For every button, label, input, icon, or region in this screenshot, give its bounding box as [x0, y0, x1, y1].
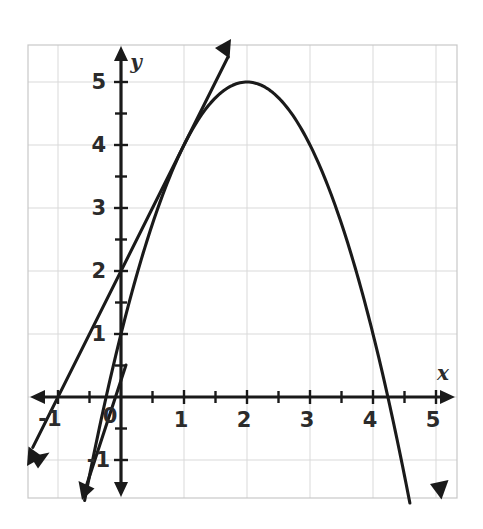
- x-axis-name: x: [436, 361, 450, 385]
- x-tick-label-4: 4: [363, 408, 378, 432]
- y-tick-label-4: 4: [91, 133, 106, 157]
- x-tick-label-3: 3: [300, 408, 315, 432]
- x-tick-label-5: 5: [426, 408, 441, 432]
- y-tick-label-1: 1: [91, 322, 106, 346]
- y-tick-label--1: -1: [87, 448, 110, 472]
- figure-page: -1 0 1 2 3 4 5 5 4 3 2 1 -1 x y: [0, 0, 483, 529]
- x-tick-label-1: 1: [174, 408, 189, 432]
- y-tick-label-2: 2: [91, 259, 106, 283]
- y-tick-label-5: 5: [91, 70, 106, 94]
- x-tick-label-0: 0: [103, 404, 118, 428]
- y-tick-label-3: 3: [91, 196, 106, 220]
- coordinate-plane-svg: -1 0 1 2 3 4 5 5 4 3 2 1 -1 x y: [0, 0, 483, 529]
- y-axis-name: y: [129, 50, 143, 74]
- x-tick-label-2: 2: [237, 408, 252, 432]
- graph-figure: -1 0 1 2 3 4 5 5 4 3 2 1 -1 x y: [0, 0, 483, 529]
- x-tick-label--1: -1: [38, 407, 61, 431]
